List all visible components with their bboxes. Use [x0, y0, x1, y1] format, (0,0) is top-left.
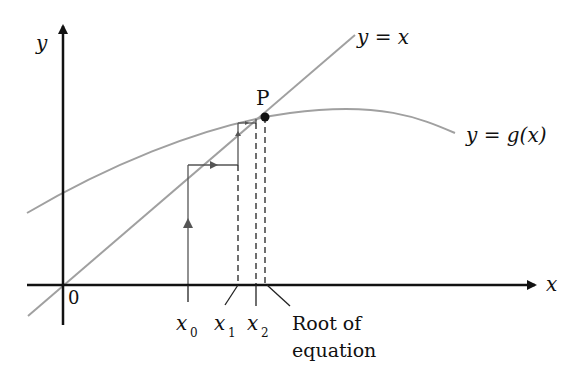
curve-g-label: y = g(x) [465, 123, 546, 147]
curve-g-of-x [27, 109, 455, 213]
point-p-label: P [256, 86, 269, 110]
tick-label-x0: x [176, 311, 187, 335]
cobweb-arrow-up-icon [183, 218, 193, 228]
tick-label-x2: x [247, 311, 258, 335]
y-axis-label: y [35, 31, 48, 55]
tick-subscript-x0: 0 [190, 326, 198, 340]
tick-subscript-x1: 1 [228, 326, 236, 340]
x-axis-label: x [546, 272, 557, 296]
root-label-line2: equation [292, 339, 376, 361]
cobweb-arrow-right-icon [210, 161, 218, 169]
line-y-equals-x [28, 35, 355, 316]
root-label-line1: Root of [292, 312, 363, 334]
diagram-canvas: P y x 0 y = x y = g(x) x 0 x 1 x 2 Root … [0, 0, 572, 388]
line-y-equals-x-label: y = x [356, 25, 409, 49]
tick-label-x1: x [214, 311, 225, 335]
cobweb-path [188, 119, 256, 285]
dashed-guides [238, 117, 265, 285]
tick-subscript-x2: 2 [261, 326, 269, 340]
origin-label: 0 [68, 287, 79, 308]
fixed-point-p [261, 113, 270, 122]
tick-leaders [188, 285, 290, 306]
